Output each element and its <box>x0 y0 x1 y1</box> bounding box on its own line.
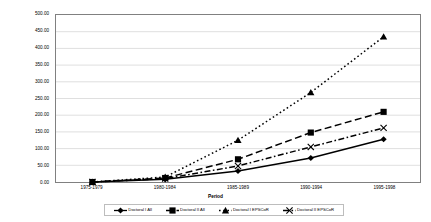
y-tick-label: 0.00 <box>40 181 49 186</box>
x-tick-label: 1980-1984 <box>154 186 176 191</box>
y-tick-label: 50.00 <box>38 164 50 169</box>
x-tick-label: 1985-1989 <box>227 186 249 191</box>
legend-item: Doctoral I All <box>114 207 152 214</box>
data-point-marker <box>117 207 123 213</box>
legend-swatch <box>219 207 232 214</box>
x-axis-title: Period <box>0 194 431 199</box>
data-point-marker <box>307 89 314 95</box>
legend-item: Doctoral II All <box>166 207 205 214</box>
legend-swatch <box>166 207 179 214</box>
legend-item: Doctoral II EPSCoR <box>283 207 335 214</box>
data-point-marker <box>235 156 241 162</box>
legend-label: Doctoral II All <box>180 208 205 212</box>
y-tick-label: 500.00 <box>35 12 49 17</box>
y-tick-label: 100.00 <box>35 147 49 152</box>
legend-swatch <box>114 207 127 214</box>
y-tick-label: 200.00 <box>35 113 49 118</box>
data-series <box>89 125 386 185</box>
y-tick-label: 150.00 <box>35 130 49 135</box>
data-point-marker <box>308 144 314 150</box>
legend-item: Doctoral I EPSCoR <box>219 207 269 214</box>
legend-label: Doctoral II EPSCoR <box>297 208 334 212</box>
data-point-marker <box>308 130 314 136</box>
chart-legend: Doctoral I AllDoctoral II AllDoctoral I … <box>104 204 344 216</box>
y-tick-label: 350.00 <box>35 62 49 67</box>
data-point-marker <box>381 109 387 115</box>
y-tick-label: 400.00 <box>35 46 49 51</box>
legend-label: Doctoral I All <box>128 208 152 212</box>
y-tick-label: 300.00 <box>35 79 49 84</box>
y-tick-label: 450.00 <box>35 29 49 34</box>
data-point-marker <box>308 155 314 161</box>
chart-container: Percent Change From Initial Period 0.005… <box>0 0 431 222</box>
data-series-layer <box>56 15 420 182</box>
data-point-marker <box>380 33 387 39</box>
y-axis-tick-labels: 0.0050.00100.00150.00200.00250.00300.003… <box>0 14 52 183</box>
data-point-marker <box>169 207 175 213</box>
data-point-marker <box>381 125 387 131</box>
data-point-marker <box>234 137 241 143</box>
x-tick-label: 1990-1994 <box>300 186 322 191</box>
x-tick-label: 1975-1979 <box>81 186 103 191</box>
legend-swatch <box>283 207 296 214</box>
legend-label: Doctoral I EPSCoR <box>233 208 269 212</box>
data-point-marker <box>381 136 387 142</box>
plot-area <box>55 14 421 183</box>
y-tick-label: 250.00 <box>35 96 49 101</box>
x-tick-label: 1995-1998 <box>373 186 395 191</box>
